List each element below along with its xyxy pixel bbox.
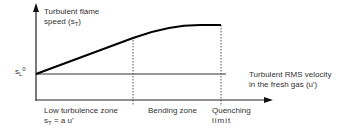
x-axis-arrow-icon xyxy=(264,97,273,103)
y-axis-label: Turbulent flame speed (sT) xyxy=(44,7,99,29)
y-axis-arrow-icon xyxy=(33,3,39,12)
zone-low-turbulence: Low turbulence zone sT = a u' xyxy=(44,106,118,128)
zone-quenching: Quenching limit xyxy=(212,106,251,126)
zone-bending: Bending zone xyxy=(148,106,197,116)
x-axis-label: Turbulent RMS velocity in the fresh gas … xyxy=(249,70,331,90)
flame-speed-curve xyxy=(36,25,221,74)
laminar-speed-label: sL0 xyxy=(15,64,26,79)
